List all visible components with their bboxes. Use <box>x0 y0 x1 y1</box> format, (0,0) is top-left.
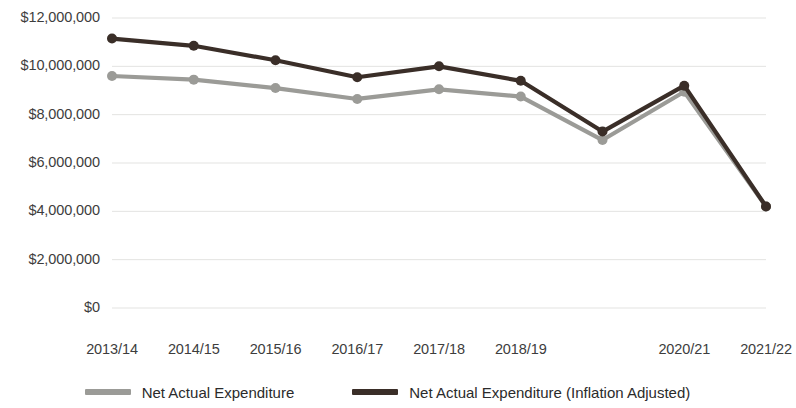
data-point-marker[interactable] <box>352 94 362 104</box>
data-point-marker[interactable] <box>107 34 117 44</box>
x-axis-tick-label: 2021/22 <box>711 341 796 357</box>
legend-item-net-actual-expenditure-inflation-adjusted[interactable]: Net Actual Expenditure (Inflation Adjust… <box>352 384 690 401</box>
data-point-marker[interactable] <box>761 202 771 212</box>
data-point-marker[interactable] <box>271 83 281 93</box>
x-axis-tick-label: 2018/19 <box>466 341 576 357</box>
legend-label: Net Actual Expenditure <box>142 384 295 401</box>
data-point-marker[interactable] <box>598 127 608 137</box>
data-point-marker[interactable] <box>434 84 444 94</box>
legend-swatch-icon <box>85 389 131 395</box>
data-point-marker[interactable] <box>516 92 526 102</box>
data-point-marker[interactable] <box>352 72 362 82</box>
legend-swatch-icon <box>352 389 398 395</box>
data-point-marker[interactable] <box>189 41 199 51</box>
chart-legend: Net Actual Expenditure Net Actual Expend… <box>0 376 775 408</box>
data-point-marker[interactable] <box>107 71 117 81</box>
legend-item-net-actual-expenditure[interactable]: Net Actual Expenditure <box>85 384 295 401</box>
data-point-marker[interactable] <box>679 81 689 91</box>
data-point-marker[interactable] <box>516 76 526 86</box>
data-point-marker[interactable] <box>434 61 444 71</box>
series-layer <box>107 34 771 212</box>
data-point-marker[interactable] <box>189 75 199 85</box>
data-point-marker[interactable] <box>271 55 281 65</box>
legend-label: Net Actual Expenditure (Inflation Adjust… <box>409 384 690 401</box>
